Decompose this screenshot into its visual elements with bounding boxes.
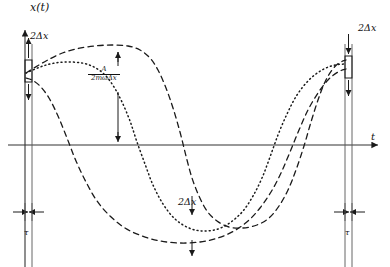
- amplitude-denominator: 2mωΔx: [88, 75, 120, 82]
- physics-trajectory-figure: x(t) t 2Δx 2Δx 2Δx τ τ A 2mωΔx: [0, 0, 390, 267]
- axis-group: [8, 30, 378, 267]
- delta-x-label-left: 2Δx: [30, 30, 48, 41]
- figure-canvas: [0, 0, 390, 267]
- delta-x-bracket-right: [345, 34, 352, 96]
- delta-x-label-right: 2Δx: [358, 22, 376, 33]
- trajectory-curves: [26, 45, 346, 243]
- x-axis-label: t: [371, 131, 375, 142]
- tau-label-left: τ: [24, 228, 28, 237]
- amplitude-fraction-label: A 2mωΔx: [88, 66, 120, 83]
- tau-label-right: τ: [345, 228, 349, 237]
- delta-x-label-bottom: 2Δx: [178, 196, 196, 207]
- delta-x-bracket-left: [25, 38, 32, 100]
- tau-interval-right: [334, 203, 365, 221]
- amplitude-numerator: A: [88, 66, 120, 73]
- y-axis-label: x(t): [30, 1, 49, 14]
- tau-interval-left: [13, 203, 44, 221]
